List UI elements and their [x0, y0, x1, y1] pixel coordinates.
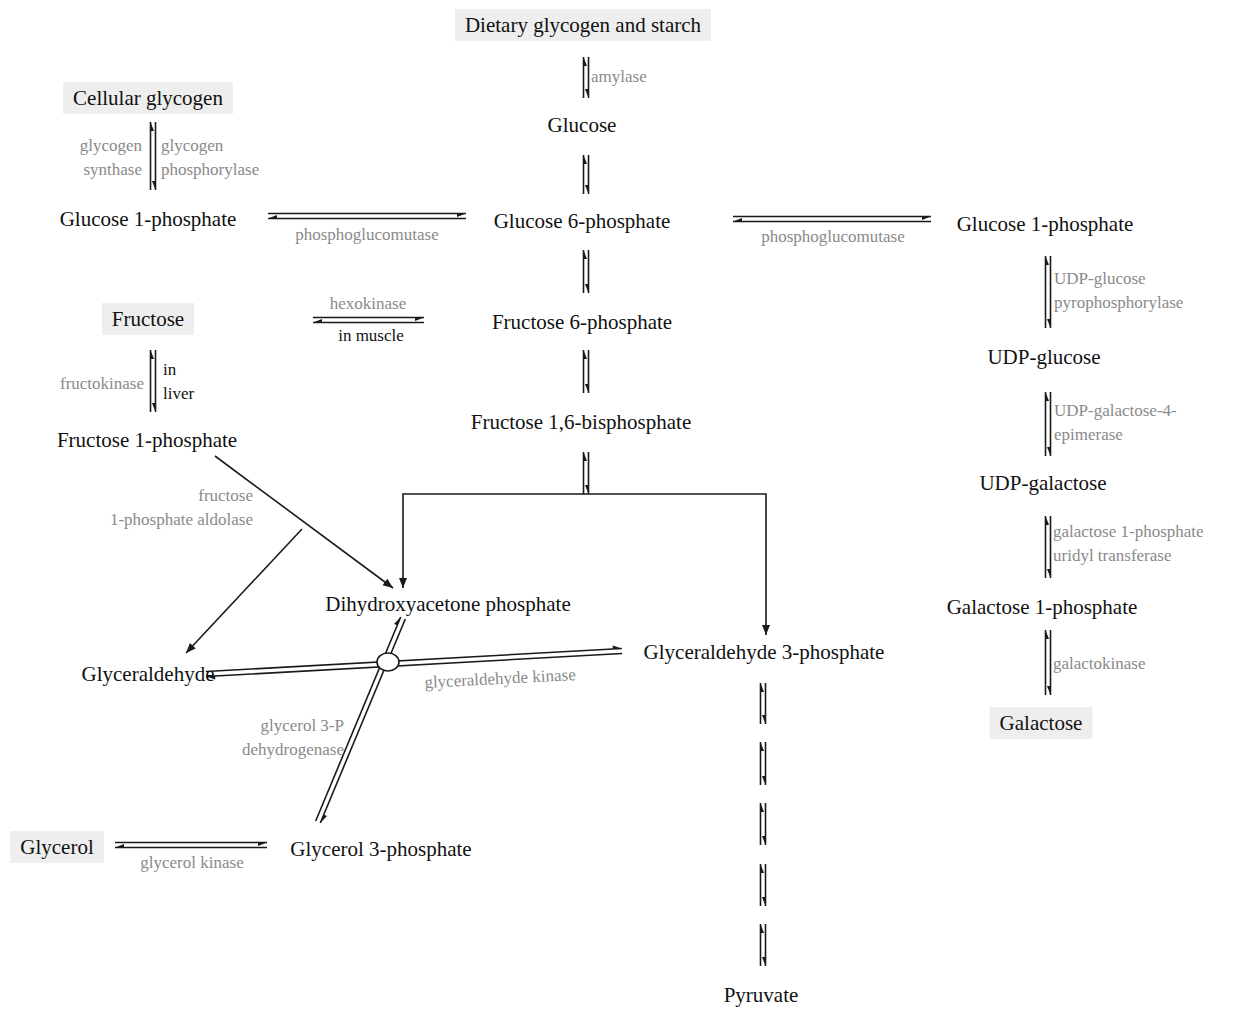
- equilibrium-arrow-icon: [761, 742, 766, 785]
- equilibrium-arrow-icon: [1046, 630, 1051, 695]
- reaction-arrow-icon: [186, 529, 302, 653]
- equilibrium-arrow-icon: [584, 452, 589, 494]
- enzyme-line: galactokinase: [1053, 654, 1146, 673]
- equilibrium-arrow-icon: [761, 803, 766, 845]
- enzyme-line: UDP-glucose: [1054, 269, 1146, 288]
- equilibrium-arrow-icon: [733, 217, 931, 222]
- enzyme-g3p-dh: glycerol 3-Pdehydrogenase: [242, 716, 344, 759]
- metabolite-g1p-left: Glucose 1-phosphate: [60, 207, 237, 231]
- equilibrium-arrow-icon: [761, 864, 766, 906]
- equilibrium-arrow-icon: [151, 350, 156, 412]
- condition-in-muscle: in muscle: [338, 326, 404, 345]
- metabolite-f6p: Fructose 6-phosphate: [492, 310, 672, 334]
- enzyme-line: dehydrogenase: [242, 740, 344, 759]
- enzyme-line: glycerol 3-P: [260, 716, 344, 735]
- metabolite-udp-glucose: UDP-glucose: [987, 345, 1100, 369]
- enzyme-line: glyceraldehyde kinase: [424, 665, 576, 692]
- enzyme-line: fructokinase: [60, 374, 144, 393]
- glycolysis-feeder-pathways-diagram: Dietary glycogen and starchGlucoseCellul…: [0, 0, 1246, 1027]
- metabolite-dietary: Dietary glycogen and starch: [465, 13, 702, 37]
- enzyme-glyceraldehyde-kinase: glyceraldehyde kinase: [424, 665, 576, 692]
- enzyme-udp-glc-ppase: UDP-glucosepyrophosphorylase: [1054, 269, 1183, 312]
- metabolite-gap: Glyceraldehyde 3-phosphate: [644, 640, 885, 664]
- equilibrium-arrow-icon: [584, 155, 589, 194]
- metabolite-gal1p: Galactose 1-phosphate: [947, 595, 1138, 619]
- enzyme-line: amylase: [591, 67, 647, 86]
- enzyme-amylase: amylase: [591, 67, 647, 86]
- metabolite-f16bp: Fructose 1,6-bisphosphate: [471, 410, 691, 434]
- metabolite-g6p: Glucose 6-phosphate: [494, 209, 671, 233]
- enzyme-glycerol-kinase: glycerol kinase: [140, 853, 243, 872]
- enzyme-line: uridyl transferase: [1053, 546, 1171, 565]
- reaction-arrows: [115, 57, 1051, 966]
- metabolite-galactose: Galactose: [1000, 711, 1083, 735]
- enzyme-hexokinase: hexokinase: [330, 294, 406, 313]
- metabolite-dhap: Dihydroxyacetone phosphate: [325, 592, 571, 616]
- equilibrium-arrow-icon: [584, 350, 589, 393]
- enzyme-pgm-left: phosphoglucomutase: [295, 225, 439, 244]
- metabolite-f1p: Fructose 1-phosphate: [57, 428, 237, 452]
- enzyme-line: phosphoglucomutase: [761, 227, 905, 246]
- equilibrium-arrow-icon: [151, 122, 156, 190]
- metabolite-glucose: Glucose: [548, 113, 617, 137]
- enzyme-glycogen-phosphorylase: glycogenphosphorylase: [161, 136, 259, 179]
- equilibrium-arrow-icon: [761, 683, 766, 724]
- enzyme-line: glycerol kinase: [140, 853, 243, 872]
- equilibrium-arrow-icon: [1046, 392, 1051, 456]
- equilibrium-arrow-icon: [761, 924, 766, 966]
- metabolite-fructose: Fructose: [112, 307, 184, 331]
- condition-line: in muscle: [338, 326, 404, 345]
- enzyme-line: 1-phosphate aldolase: [110, 510, 253, 529]
- equilibrium-arrow-icon: [115, 843, 267, 848]
- enzyme-line: hexokinase: [330, 294, 406, 313]
- enzyme-labels: amylaseglycogensynthaseglycogenphosphory…: [60, 67, 1204, 872]
- condition-in-liver: inliver: [163, 360, 194, 403]
- equilibrium-arrow-icon: [584, 57, 589, 98]
- condition-labels: in muscleinliver: [163, 326, 404, 403]
- equilibrium-arrow-icon: [313, 318, 424, 323]
- enzyme-line: synthase: [83, 160, 142, 179]
- enzyme-gal1p-uridyl: galactose 1-phosphateuridyl transferase: [1053, 522, 1204, 565]
- enzyme-line: UDP-galactose-4-: [1054, 401, 1177, 420]
- metabolite-g1p-right: Glucose 1-phosphate: [957, 212, 1134, 236]
- equilibrium-arrow-icon: [584, 250, 589, 293]
- enzyme-galactokinase: galactokinase: [1053, 654, 1146, 673]
- enzyme-line: galactose 1-phosphate: [1053, 522, 1204, 541]
- metabolite-pyruvate: Pyruvate: [724, 983, 799, 1007]
- condition-line: in: [163, 360, 177, 379]
- enzyme-fructokinase: fructokinase: [60, 374, 144, 393]
- enzyme-line: pyrophosphorylase: [1054, 293, 1183, 312]
- equilibrium-arrow-icon: [1046, 516, 1051, 578]
- enzyme-line: phosphoglucomutase: [295, 225, 439, 244]
- metabolite-udp-galactose: UDP-galactose: [979, 471, 1106, 495]
- equilibrium-arrow-icon: [1046, 256, 1051, 328]
- enzyme-line: glycogen: [80, 136, 143, 155]
- condition-line: liver: [163, 384, 194, 403]
- enzyme-line: glycogen: [161, 136, 224, 155]
- enzyme-udp-gal-epimerase: UDP-galactose-4-epimerase: [1054, 401, 1177, 444]
- equilibrium-arrow-icon: [268, 214, 466, 219]
- enzyme-line: epimerase: [1054, 425, 1123, 444]
- metabolite-cell-glycogen: Cellular glycogen: [73, 86, 223, 110]
- metabolite-g3p: Glycerol 3-phosphate: [290, 837, 471, 861]
- metabolite-glycerol: Glycerol: [20, 835, 94, 859]
- enzyme-glycogen-synthase: glycogensynthase: [80, 136, 143, 179]
- enzyme-line: phosphorylase: [161, 160, 259, 179]
- metabolite-glyceraldehyde: Glyceraldehyde: [82, 662, 215, 686]
- enzyme-line: fructose: [198, 486, 253, 505]
- enzyme-f1p-aldolase: fructose1-phosphate aldolase: [110, 486, 253, 529]
- enzyme-pgm-right: phosphoglucomutase: [761, 227, 905, 246]
